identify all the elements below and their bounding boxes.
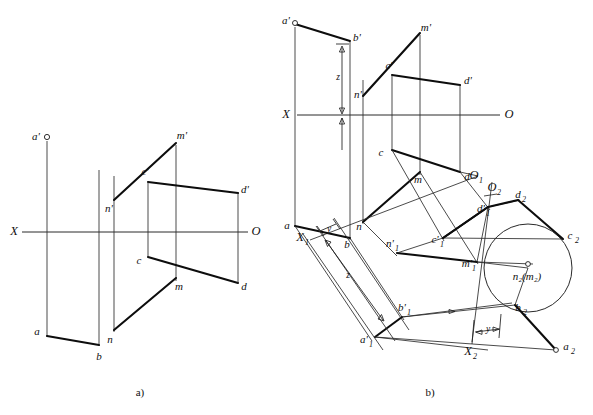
diagram-b-label-m-prime: m' [421,21,432,33]
label-a2-subscript: 2 [571,347,575,356]
dim-z-upper-group: z [335,44,349,114]
caption-b: b) [425,386,435,399]
diagram-b-axis-label-o: O [504,107,513,121]
dim-z-lower-label: z [345,270,350,280]
diagram-a-label-n: n [107,333,113,345]
label-a2: a [563,340,569,352]
aux1-edge-a1b1 [375,317,402,337]
diagram-a-segment-ab [47,336,99,345]
label-n1-prime-subscript: 1 [395,244,399,253]
diagram-b-label-d-prime: d' [464,74,473,86]
diagram-b-label-c: c [379,146,384,158]
diagram-a-label-c: c [137,254,142,266]
caption-a: a) [136,386,145,399]
diagram-a-edge-cd-prime [148,182,238,193]
diagram-b-label-n-prime: n' [354,88,363,100]
diagram-b-segment-ab-prime [295,24,350,41]
diagram-b-group: z [293,21,573,353]
diagram-b-label-a-prime: a' [282,14,291,26]
diagram-b-label-c-prime: c' [385,59,393,71]
label-n2-m2: n₂(m₂) [513,270,542,283]
diagram-b-label-b-prime: b' [353,31,362,43]
label-b2-subscript: 2 [523,308,527,317]
ray-c1-to-c2 [443,238,563,239]
diagram-a-label-a-prime: a' [32,130,41,142]
label-d2: d [515,188,521,200]
label-c2-group: c 2 [568,229,579,245]
axis-x1-subscript: 1 [305,238,309,247]
axis-x2-label-group: X 2 [463,344,477,361]
label-b1-prime: b' [398,301,407,313]
label-m1-prime-subscript: 1 [472,264,476,273]
dim-y-left-label: y [326,224,332,234]
origin-o2-subscript: 2 [497,188,501,197]
ray-m-to-m1 [420,172,478,264]
dim-y-left-tick-b [333,219,340,229]
diagram-a-label-b: b [96,350,102,362]
axis-x2-label: X [463,344,473,358]
aux2-edge-d1d2 [488,200,518,207]
label-c1-prime-group: c' 1 [431,233,444,249]
diagram-b-label-m: m [414,173,422,185]
diagram-b-edge-nm [363,172,420,222]
origin-o1-subscript: 1 [479,176,483,185]
diagram-a-edge-cd [148,257,238,283]
label-b2: b [515,301,521,313]
label-m1-prime-group: m' 1 [462,257,476,273]
marker-n2-m2-center [526,262,531,267]
diagram-a-label-m-prime: m' [177,129,188,141]
diagram-a-axis-label-o: O [251,224,260,238]
label-n1-prime-group: n' 1 [386,237,399,253]
diagram-a-label-n-prime: n' [105,202,114,214]
dim-y-bottom-arrow-left [476,330,482,334]
label-b2-group: b 2 [515,301,527,317]
diagram-b-edge-cd-prime [392,75,460,85]
dim-z-upper-label: z [335,72,340,82]
axis-x2-subscript: 2 [473,352,477,361]
label-n1-prime: n' [386,237,395,249]
diagram-a-label-c-prime: c' [141,165,149,177]
diagram-a-label-d-prime: d' [241,183,250,195]
label-a1-prime-subscript: 1 [369,340,373,349]
dim-y-bottom-label: y [485,324,491,334]
descriptive-geometry-figure: X O a' a b n' n m' m c' c d' d z [0,0,593,415]
ray-b1-to-b2 [402,305,515,317]
label-c2: c [568,229,573,241]
dim-y-bottom-tick-left [472,320,474,344]
figure-captions: a) b) [136,386,435,399]
origin-o1-label-group: O 1 [469,168,483,185]
diagram-b-label-a: a [284,219,290,231]
diagram-a-label-a: a [34,325,40,337]
axis-x1-label-group: X 1 [295,230,309,247]
diagram-b-labels: X O a' b' a b n' n m' m c' c d' d X 1 X … [281,14,579,361]
label-c1-prime: c' [431,233,439,245]
label-a1-prime-group: a' 1 [360,333,373,349]
label-c1-prime-subscript: 1 [440,240,444,249]
diagram-b-axis-label-x: X [281,107,291,121]
origin-o2-label: O [487,180,496,194]
dim-y-bottom-tick-right [499,314,501,338]
band-line-outer [303,234,383,350]
label-d1-prime-subscript: 1 [486,209,490,218]
label-d2-subscript: 2 [522,195,526,204]
marker-a2 [554,348,559,353]
dim-y-bottom-group: y [472,314,501,344]
label-a2-group: a 2 [563,340,575,356]
origin-o1-label: O [469,168,478,182]
figure-canvas: X O a' a b n' n m' m c' c d' d z [0,0,593,415]
diagram-a-label-m: m [175,280,183,292]
label-d1-prime: d' [477,202,486,214]
axis-x1-label: X [295,230,305,244]
diagram-a-label-d: d [241,280,247,292]
label-d1-prime-group: d' 1 [477,202,490,218]
diagram-b-label-n: n [356,220,362,232]
diagram-a-group [22,134,248,345]
diagram-b-label-b: b [344,238,350,250]
label-a1-prime: a' [360,333,369,345]
aux2-edge-d2c2 [518,200,563,239]
diagram-a-marker-a-prime [44,134,49,139]
diagram-a-axis-label-x: X [9,224,19,238]
diagram-a-edge-nm [114,278,176,330]
dim-z-lower-tick-group [339,118,344,150]
label-c2-subscript: 2 [575,236,579,245]
